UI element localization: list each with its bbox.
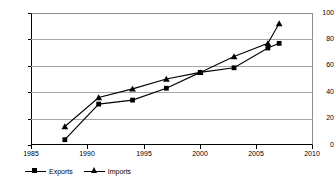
gridline-40 (31, 92, 313, 93)
x-tick-label-2000: 2000 (185, 150, 215, 158)
x-tick-label-2005: 2005 (241, 150, 271, 158)
triangle-marker-icon (84, 167, 105, 176)
x-tick-label-1985: 1985 (16, 150, 46, 158)
x-tick-label-2010: 2010 (297, 150, 327, 158)
line-chart: 100 80 60 40 20 0 1985 1990 1995 2000 20… (0, 0, 334, 191)
legend-label-exports: Exports (49, 168, 73, 176)
chart-legend: Exports Imports (25, 167, 131, 176)
legend-label-imports: Imports (108, 168, 131, 176)
square-marker-icon (25, 167, 46, 176)
gridline-20 (31, 119, 313, 120)
x-tick-label-1995: 1995 (129, 150, 159, 158)
x-tick-mark-2005 (256, 145, 257, 149)
x-tick-mark-2010 (312, 145, 313, 149)
x-tick-label-1990: 1990 (72, 150, 102, 158)
x-tick-mark-1985 (31, 145, 32, 149)
x-tick-mark-1995 (144, 145, 145, 149)
legend-item-imports: Imports (84, 167, 131, 176)
plot-area (31, 13, 313, 145)
gridline-80 (31, 39, 313, 40)
gridline-60 (31, 66, 313, 67)
legend-item-exports: Exports (25, 167, 73, 176)
x-tick-mark-2000 (200, 145, 201, 149)
x-tick-mark-1990 (87, 145, 88, 149)
